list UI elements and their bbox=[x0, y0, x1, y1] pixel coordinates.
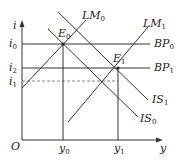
e0-label: E0 bbox=[58, 28, 71, 41]
i1-label: i1 bbox=[9, 76, 17, 89]
is1-label: IS1 bbox=[152, 94, 168, 107]
bp1-label: BP1 bbox=[154, 62, 174, 75]
is-lm-bp-diagram: i y O i0 i2 i1 y0 y1 LM0 LM1 BP0 BP1 IS1… bbox=[0, 0, 179, 162]
lm0-label: LM0 bbox=[82, 10, 105, 23]
y-axis-label: i bbox=[13, 20, 17, 31]
origin-label: O bbox=[11, 141, 20, 152]
lm1-curve bbox=[68, 27, 148, 122]
is0-label: IS0 bbox=[140, 113, 156, 126]
y-axis-arrow bbox=[20, 20, 25, 27]
bp0-label: BP0 bbox=[154, 38, 174, 51]
is1-curve bbox=[58, 12, 148, 100]
e1-label: E1 bbox=[113, 53, 126, 66]
e0-point bbox=[61, 42, 64, 45]
i2-label: i2 bbox=[9, 62, 17, 75]
y1-label: y1 bbox=[114, 143, 125, 156]
lm1-label: LM1 bbox=[143, 18, 166, 31]
e1-point bbox=[116, 66, 119, 69]
x-axis-label: y bbox=[160, 143, 166, 154]
i0-label: i0 bbox=[9, 38, 17, 51]
is0-curve bbox=[48, 29, 138, 117]
y0-label: y0 bbox=[59, 143, 70, 156]
